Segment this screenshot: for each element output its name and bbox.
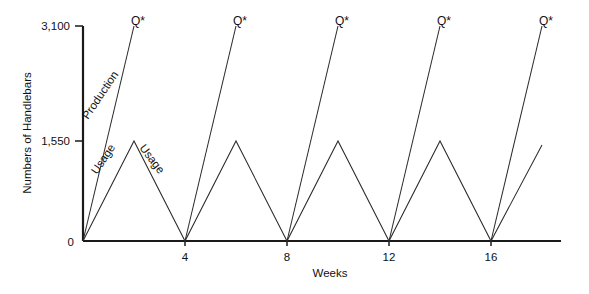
usage-label-2: Usage [137, 142, 167, 176]
production-series [83, 26, 542, 241]
y-tick-label-3100: 3,100 [41, 20, 70, 32]
x-tick-label-8: 8 [284, 251, 290, 263]
production-ramp-5 [491, 26, 542, 241]
qstar-label-2: Q* [233, 14, 247, 28]
x-axis-title: Weeks [313, 267, 348, 279]
usage-label-1: Usage [89, 142, 118, 176]
production-ramp-2 [185, 26, 236, 241]
x-tick-label-16: 16 [485, 251, 498, 263]
x-tick-label-4: 4 [182, 251, 189, 263]
y-tick-label-0: 0 [68, 236, 74, 248]
y-axis-title: Numbers of Handlebars [21, 72, 33, 194]
qstar-label-1: Q* [131, 14, 145, 28]
sawtooth-inventory-chart: 3,100 1,550 0 4 8 12 16 Numbers of Handl… [0, 0, 589, 294]
production-label: Production [80, 69, 121, 121]
chart-figure: 3,100 1,550 0 4 8 12 16 Numbers of Handl… [0, 0, 589, 294]
y-ticks-group [75, 26, 83, 141]
qstar-label-3: Q* [335, 14, 349, 28]
production-ramp-1 [83, 26, 134, 241]
x-tick-label-12: 12 [383, 251, 396, 263]
qstar-label-5: Q* [539, 14, 553, 28]
production-ramp-3 [287, 26, 338, 241]
qstar-label-4: Q* [437, 14, 451, 28]
axes-group [83, 26, 561, 241]
production-ramp-4 [389, 26, 440, 241]
y-tick-label-1550: 1,550 [41, 135, 70, 147]
